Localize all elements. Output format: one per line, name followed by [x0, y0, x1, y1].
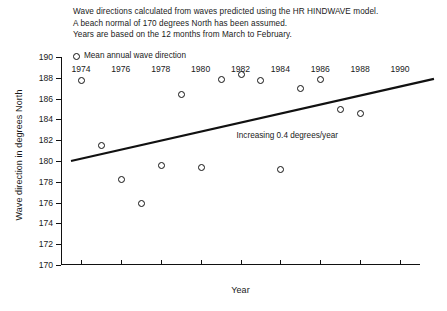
- trendline: [61, 57, 420, 265]
- y-tick-label: 180: [39, 157, 53, 166]
- chart-figure: Wave directions calculated from waves pr…: [0, 0, 447, 311]
- note-line-1: Wave directions calculated from waves pr…: [73, 6, 378, 18]
- y-tick-label: 188: [39, 74, 53, 83]
- y-tick-label: 176: [39, 198, 53, 207]
- y-tick-label: 174: [39, 219, 53, 228]
- note-line-2: A beach normal of 170 degrees North has …: [73, 18, 378, 30]
- y-tick-label: 172: [39, 240, 53, 249]
- y-tick-label: 184: [39, 115, 53, 124]
- y-axis-title: Wave direction in degrees North: [14, 50, 24, 260]
- note-line-3: Years are based on the 12 months from Ma…: [73, 29, 378, 41]
- y-tick-label: 170: [39, 261, 53, 270]
- y-tick-label: 182: [39, 136, 53, 145]
- y-tick-label: 186: [39, 94, 53, 103]
- plot-area: 170172174176178180182184186188190 197419…: [61, 57, 420, 265]
- x-axis-title: Year: [61, 285, 420, 295]
- y-tick-label: 178: [39, 178, 53, 187]
- y-tick-label: 190: [39, 53, 53, 62]
- y-tick: [56, 265, 61, 266]
- figure-notes: Wave directions calculated from waves pr…: [73, 6, 378, 41]
- trendline-annotation: Increasing 0.4 degrees/year: [237, 131, 339, 140]
